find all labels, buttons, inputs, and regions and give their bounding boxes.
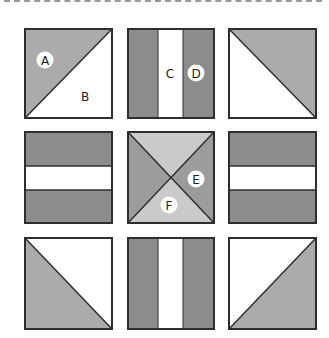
block-vertical-stripes-bottom (128, 238, 214, 329)
label-d-text: D (191, 67, 200, 81)
label-c: C (166, 67, 174, 81)
label-b: B (81, 90, 89, 104)
block-hst-bottom-left (25, 238, 112, 329)
block-horizontal-stripes-right (229, 132, 316, 223)
label-d: D (188, 65, 205, 82)
block-hst-bottom-right (229, 238, 316, 329)
label-b-text: B (81, 90, 89, 104)
label-e: E (188, 171, 205, 188)
quilt-diagram: A B C D E F (0, 0, 329, 338)
label-e-text: E (192, 173, 200, 187)
label-f-text: F (166, 199, 173, 213)
label-a-text: A (41, 54, 50, 68)
block-hst-top-left (25, 29, 112, 118)
label-c-text: C (166, 67, 174, 81)
block-hst-top-right (229, 29, 316, 118)
label-f: F (161, 197, 178, 214)
label-a: A (37, 52, 54, 69)
block-horizontal-stripes-left (25, 132, 112, 223)
